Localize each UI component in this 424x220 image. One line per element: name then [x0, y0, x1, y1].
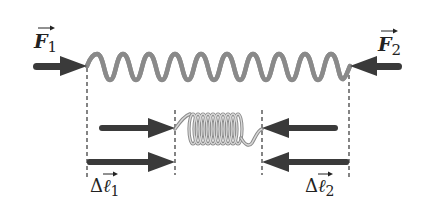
spring-diagram: [0, 0, 424, 220]
label-dl1-symbol: ℓ: [103, 175, 111, 196]
label-F2: F2: [378, 35, 401, 58]
label-dl1-prefix: Δ: [90, 175, 103, 196]
label-dl2-symbol: ℓ: [318, 175, 326, 196]
label-dl1-subscript: 1: [111, 183, 120, 199]
label-F1-subscript: 1: [48, 38, 58, 56]
force-arrow-F2: [350, 56, 402, 76]
compressed-spring: [175, 114, 262, 145]
force-arrow-middle-left: [99, 118, 175, 138]
label-delta-l2: Δℓ2: [305, 177, 334, 198]
force-arrow-F1: [33, 56, 87, 76]
label-F2-symbol: F: [378, 33, 392, 55]
label-delta-l1: Δℓ1: [90, 177, 119, 198]
label-F1-symbol: F: [34, 30, 48, 52]
label-dl2-prefix: Δ: [305, 175, 318, 196]
label-F2-subscript: 2: [392, 41, 402, 59]
label-F1: F1: [34, 32, 57, 55]
displacement-arrow-2: [262, 152, 349, 172]
displacement-arrow-1: [87, 152, 175, 172]
relaxed-spring: [87, 54, 350, 80]
label-dl2-subscript: 2: [326, 183, 335, 199]
force-arrow-middle-right: [262, 118, 338, 138]
